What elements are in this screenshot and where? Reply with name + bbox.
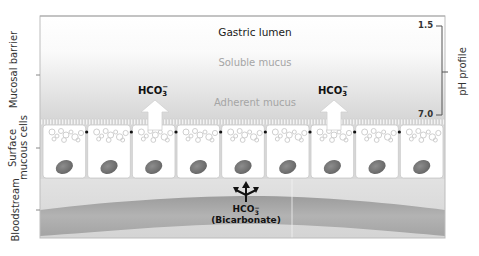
bicarbonate-formula: HCO bbox=[233, 204, 255, 214]
gastric-lumen-label: Gastric lumen bbox=[200, 26, 310, 38]
ph-bottom-value: 7.0 bbox=[418, 109, 433, 119]
bloodstream-label: Bloodstream bbox=[10, 182, 21, 242]
surface-label-line2: mucous cells bbox=[18, 116, 29, 180]
surface-mucous-cell bbox=[43, 125, 86, 178]
tight-junction bbox=[308, 130, 311, 133]
surface-mucous-cell bbox=[177, 125, 220, 178]
surface-mucous-cells bbox=[43, 125, 443, 178]
hco3-subscript: 3 bbox=[162, 91, 168, 98]
tight-junction bbox=[130, 130, 133, 133]
surface-mucous-cell bbox=[400, 125, 443, 178]
hco3-subscript: 3 bbox=[342, 91, 348, 98]
bicarbonate-name: (Bicarbonate) bbox=[206, 215, 286, 225]
surface-mucous-cell bbox=[356, 125, 399, 178]
surface-mucous-cells-label: Surface mucous cells bbox=[7, 116, 29, 180]
bicarbonate-subscript: 3 bbox=[254, 210, 259, 215]
microvilli-row bbox=[41, 119, 445, 125]
surface-label-line1: Surface bbox=[7, 116, 18, 180]
surface-mucous-cell bbox=[266, 125, 309, 178]
tight-junction bbox=[353, 130, 356, 133]
tight-junction bbox=[85, 130, 88, 133]
tight-junction bbox=[264, 130, 267, 133]
ph-top-value: 1.5 bbox=[418, 20, 433, 30]
hco3-formula: HCO bbox=[318, 85, 342, 96]
ph-profile-label: pH profile bbox=[457, 42, 468, 102]
tight-junction bbox=[219, 130, 222, 133]
surface-mucous-cell bbox=[311, 125, 354, 178]
soluble-mucus-label: Soluble mucus bbox=[195, 57, 315, 68]
surface-mucous-cell bbox=[132, 125, 175, 178]
tight-junction bbox=[398, 130, 401, 133]
tight-junction bbox=[174, 130, 177, 133]
mucosal-barrier-label: Mucosal barrier bbox=[8, 30, 19, 110]
left-axis-ticks bbox=[36, 75, 40, 210]
surface-mucous-cell bbox=[88, 125, 131, 178]
hco3-label-2: HCO−3 bbox=[318, 84, 348, 98]
hco3-label-1: HCO−3 bbox=[138, 84, 168, 98]
adherent-mucus-label: Adherent mucus bbox=[190, 97, 320, 108]
surface-mucous-cell bbox=[222, 125, 265, 178]
bicarbonate-label: HCO−3 (Bicarbonate) bbox=[206, 204, 286, 225]
hco3-formula: HCO bbox=[138, 85, 162, 96]
